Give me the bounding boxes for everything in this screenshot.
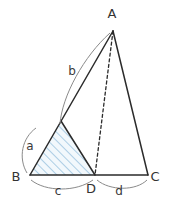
vertex-label-a: A <box>108 6 117 21</box>
side-label-c: c <box>55 184 62 198</box>
segment-ac <box>113 31 148 175</box>
vertex-label-d: D <box>86 181 96 196</box>
side-label-d: d <box>115 184 123 198</box>
shaded-triangle-region <box>30 121 95 175</box>
segment-ad-dashed <box>95 31 113 175</box>
geometry-canvas: A B C D a b c d <box>0 0 170 210</box>
geometry-figure: A B C D a b c d <box>0 0 170 210</box>
side-label-b: b <box>68 64 76 78</box>
vertex-label-b: B <box>12 169 21 184</box>
vertex-label-c: C <box>150 169 159 184</box>
measure-arc-c <box>31 180 93 189</box>
side-label-a: a <box>26 139 33 153</box>
